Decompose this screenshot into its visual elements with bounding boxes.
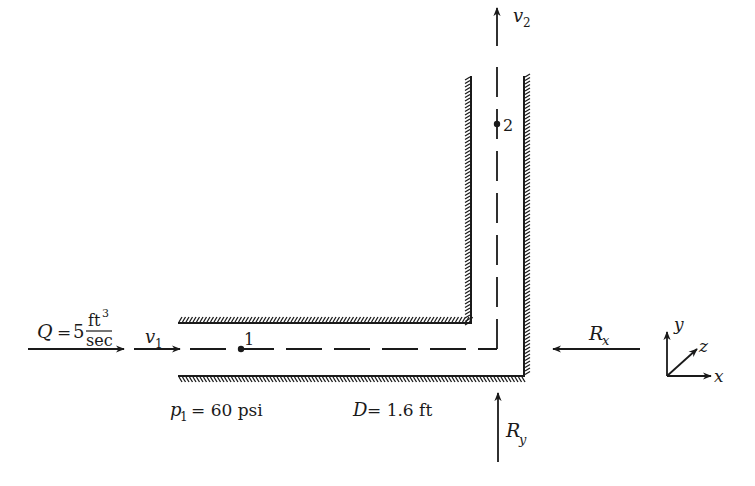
svg-text:= 60 psi: = 60 psi xyxy=(191,400,263,420)
x-axis-label: x xyxy=(714,366,724,386)
svg-text:ft: ft xyxy=(88,311,101,330)
hatch-bottom-wall xyxy=(179,377,525,382)
hatch-inner-vertical xyxy=(465,77,470,325)
inner-wall xyxy=(178,76,471,323)
svg-text:5: 5 xyxy=(73,321,84,342)
diameter-label: D = 1.6 ft xyxy=(352,399,432,420)
z-axis-arrow xyxy=(667,349,697,376)
y-axis-label: y xyxy=(673,314,684,334)
wall-hatching xyxy=(179,74,530,382)
flow-rate-label: Q = 5 ft 3 sec xyxy=(37,307,113,350)
svg-text:D: D xyxy=(352,399,368,420)
svg-text:y: y xyxy=(518,432,527,447)
outer-wall xyxy=(178,76,524,376)
svg-text:= 1.6 ft: = 1.6 ft xyxy=(367,400,432,420)
point-1-label: 1 xyxy=(244,330,254,349)
pressure-label: p 1 = 60 psi xyxy=(170,399,263,424)
hatch-outer-vertical xyxy=(525,74,530,375)
svg-text:x: x xyxy=(602,333,610,348)
rx-label: R x xyxy=(588,322,610,348)
svg-text:=: = xyxy=(57,322,71,342)
centerline xyxy=(190,8,497,349)
point-2-label: 2 xyxy=(503,116,513,135)
pipe-walls xyxy=(178,76,524,376)
svg-text:2: 2 xyxy=(523,16,531,30)
v1-label: v 1 xyxy=(145,326,163,351)
hatch-top-wall xyxy=(179,317,473,322)
svg-text:Q: Q xyxy=(37,320,53,342)
svg-text:v: v xyxy=(513,5,523,26)
svg-text:sec: sec xyxy=(86,331,113,350)
svg-text:1: 1 xyxy=(155,337,163,351)
ry-label: R y xyxy=(505,419,527,447)
pipe-bend-diagram: 1 2 Q = 5 ft 3 sec v 1 v 2 R x R y p 1 =… xyxy=(0,0,755,486)
point-2-marker xyxy=(494,121,500,127)
svg-text:1: 1 xyxy=(180,410,188,424)
z-axis-label: z xyxy=(698,336,709,356)
svg-text:v: v xyxy=(145,326,155,347)
v2-label: v 2 xyxy=(513,5,531,30)
svg-text:3: 3 xyxy=(102,307,109,320)
